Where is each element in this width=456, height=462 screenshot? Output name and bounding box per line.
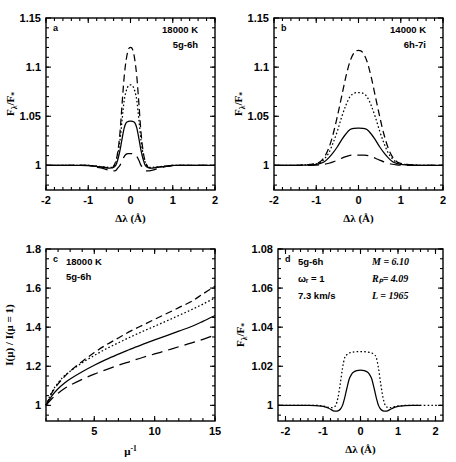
panel-c-plot: 5101511.21.41.61.8cμ-1I(μ) / I(μ = 1)180… [0, 231, 228, 462]
x-axis-title: μ-1 [124, 444, 137, 457]
panel-b: -2-101211.051.11.15bΔλ (Å)Fλ/F*14000 K6h… [228, 0, 456, 231]
y-tick-label: 1.05 [20, 110, 41, 122]
svg-text:μ-1: μ-1 [124, 444, 137, 457]
svg-text:Fλ/F*: Fλ/F* [232, 92, 247, 116]
svg-text:Δλ (Å): Δλ (Å) [343, 212, 374, 225]
panel-letter-d: d [285, 254, 291, 264]
annot-transition: 5g-6h [173, 39, 199, 50]
panel-b-annotations: 14000 K6h-7i [390, 24, 426, 50]
panel-a-annotations: 18000 K5g-6h [162, 24, 198, 50]
annot-temperature: 14000 K [390, 24, 426, 35]
x-tick-label: 2 [440, 194, 446, 206]
y-tick-label: 1 [35, 399, 41, 411]
y-tick-label: 1.2 [26, 360, 41, 372]
curve-dotted [278, 352, 443, 408]
curve-dotted [46, 298, 215, 406]
y-axis-title: Fλ/F* [234, 323, 249, 347]
curve-dashed [46, 47, 215, 168]
y-axis-title: Fλ/F* [232, 92, 247, 116]
x-tick-label: 0 [127, 194, 133, 206]
y-tick-label: 1.15 [248, 12, 269, 24]
y-tick-label: 1 [35, 159, 41, 171]
x-axis-title: Δλ (Å) [343, 212, 374, 225]
panel-a-plot: -2-101211.051.11.15aΔλ (Å)Fλ/F*18000 K5g… [0, 0, 228, 231]
x-tick-label: 0 [357, 425, 363, 437]
panel-d-plot: -2-101211.021.041.061.08dΔλ (Å)Fλ/F*5g-6… [228, 231, 456, 462]
x-tick-label: -1 [318, 425, 328, 437]
panel-a: -2-101211.051.11.15aΔλ (Å)Fλ/F*18000 K5g… [0, 0, 228, 231]
y-tick-label: 1.8 [26, 243, 41, 255]
x-tick-label: 1 [170, 194, 176, 206]
curve-long-dashed [46, 154, 215, 171]
y-tick-label: 1.06 [252, 282, 273, 294]
svg-text:Fλ/F*: Fλ/F* [234, 323, 249, 347]
curve-dashed [274, 50, 443, 165]
annot-transition: 6h-7i [404, 39, 426, 50]
svg-text:Fλ/F*: Fλ/F* [4, 92, 19, 116]
y-tick-label: 1 [267, 399, 273, 411]
y-tick-label: 1.1 [254, 61, 269, 73]
x-tick-label: -1 [311, 194, 321, 206]
x-tick-label: 5 [91, 425, 97, 437]
panel-b-plot: -2-101211.051.11.15bΔλ (Å)Fλ/F*14000 K6h… [228, 0, 456, 231]
panel-c: 5101511.21.41.61.8cμ-1I(μ) / I(μ = 1)180… [0, 231, 228, 462]
panel-d-annotations: 5g-6hωᵣ = 17.3 km/sM = 6.10Rₚ= 4.09L = 1… [298, 256, 409, 301]
annot-right-0: M = 6.10 [371, 256, 409, 267]
curve-long-dashed [274, 155, 443, 165]
annot-temperature: 18000 K [162, 24, 198, 35]
panel-letter-c: c [53, 254, 58, 264]
y-tick-label: 1.05 [248, 110, 269, 122]
panel-d: -2-101211.021.041.061.08dΔλ (Å)Fλ/F*5g-6… [228, 231, 456, 462]
svg-text:Δλ (Å): Δλ (Å) [115, 212, 146, 225]
x-tick-label: -2 [41, 194, 51, 206]
x-axis-title: Δλ (Å) [115, 212, 146, 225]
panel-c-annotations: 18000 K5g-6h [66, 256, 102, 282]
curve-solid [46, 121, 215, 168]
x-axis-title: Δλ (Å) [345, 443, 376, 456]
x-tick-label: 15 [209, 425, 221, 437]
curve-dashed [46, 286, 215, 405]
y-axis-title: Fλ/F* [4, 92, 19, 116]
x-tick-label: 0 [355, 194, 361, 206]
panel-letter-b: b [281, 23, 287, 33]
y-tick-label: 1 [263, 159, 269, 171]
annot-right-2: L = 1965 [371, 290, 408, 301]
annot-left-1: ωᵣ = 1 [298, 273, 325, 284]
y-tick-label: 1.08 [252, 243, 273, 255]
annot-left-0: 5g-6h [298, 256, 324, 267]
x-tick-label: -2 [269, 194, 279, 206]
annot-right-1: Rₚ= 4.09 [371, 273, 408, 284]
x-tick-label: 2 [432, 425, 438, 437]
annot-temperature: 18000 K [66, 256, 102, 267]
x-tick-label: 1 [395, 425, 401, 437]
y-axis-title: I(μ) / I(μ = 1) [3, 304, 16, 366]
annot-transition: 5g-6h [66, 271, 92, 282]
annot-left-2: 7.3 km/s [298, 290, 336, 301]
curve-solid [46, 315, 215, 405]
x-tick-label: 1 [398, 194, 404, 206]
y-tick-label: 1.6 [26, 282, 41, 294]
svg-text:I(μ) / I(μ = 1): I(μ) / I(μ = 1) [3, 304, 16, 366]
y-tick-label: 1.15 [20, 12, 41, 24]
curve-solid [274, 128, 443, 165]
x-tick-label: -1 [83, 194, 93, 206]
svg-text:Δλ (Å): Δλ (Å) [345, 443, 376, 456]
x-tick-label: 2 [212, 194, 218, 206]
figure-canvas: -2-101211.051.11.15aΔλ (Å)Fλ/F*18000 K5g… [0, 0, 456, 462]
y-tick-label: 1.02 [252, 360, 273, 372]
panel-letter-a: a [53, 23, 59, 33]
x-tick-label: 10 [149, 425, 161, 437]
x-tick-label: -2 [281, 425, 291, 437]
y-tick-label: 1.4 [26, 321, 42, 333]
curve-solid [278, 370, 421, 411]
curve-dotted [46, 85, 215, 168]
y-tick-label: 1.04 [252, 321, 274, 333]
y-tick-label: 1.1 [26, 61, 41, 73]
